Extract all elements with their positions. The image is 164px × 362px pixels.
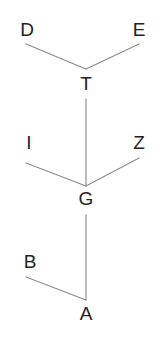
edge-z-g [86,158,139,186]
node-label-b: B [24,252,37,271]
edge-d-t [26,44,86,69]
node-label-a: A [80,304,93,323]
node-label-i: I [26,133,31,152]
tree-diagram: D E T I Z G B A [0,0,164,362]
node-label-d: D [20,20,34,39]
edge-i-g [26,163,86,186]
node-label-g: G [79,189,94,208]
node-label-t: T [80,74,92,93]
edge-e-t [86,44,139,69]
edge-b-a [26,277,86,300]
node-label-z: Z [133,133,145,152]
node-label-e: E [133,20,146,39]
